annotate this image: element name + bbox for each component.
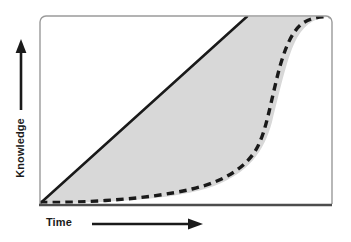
plot-area — [0, 0, 351, 242]
arrow-right-icon — [92, 216, 204, 232]
x-axis-group: Time — [40, 214, 270, 238]
knowledge-vs-time-figure: Knowledge Time — [0, 0, 351, 242]
plot-svg — [0, 0, 351, 242]
arrow-up-icon — [14, 38, 28, 110]
y-axis-group: Knowledge — [0, 0, 40, 210]
x-axis-label: Time — [46, 216, 72, 228]
y-axis-label: Knowledge — [10, 106, 30, 190]
